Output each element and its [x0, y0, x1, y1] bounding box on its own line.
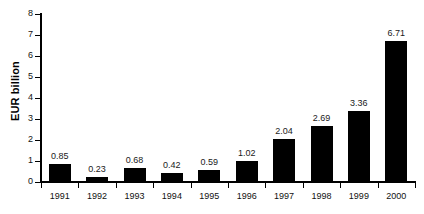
bar	[49, 164, 71, 182]
x-axis-tick-label: 2000	[378, 192, 415, 201]
x-axis-tick	[116, 183, 117, 188]
y-axis-title: EUR billion	[6, 0, 24, 182]
x-axis-tick-label: 1999	[340, 192, 377, 201]
y-axis-tick-label: 2	[22, 135, 33, 144]
bar-value-label: 0.42	[153, 161, 190, 170]
bar	[348, 111, 370, 182]
y-axis-tick-label: 5	[22, 72, 33, 81]
bar-value-label: 0.85	[41, 152, 78, 161]
y-axis-tick	[35, 56, 41, 57]
bar-value-label: 3.36	[340, 99, 377, 108]
y-axis-tick	[35, 119, 41, 120]
bar-value-label: 2.69	[303, 114, 340, 123]
y-axis-tick	[35, 77, 41, 78]
x-axis-tick	[265, 183, 266, 188]
bar	[236, 161, 258, 182]
y-axis-tick-label: 1	[22, 156, 33, 165]
y-axis-tick	[35, 35, 41, 36]
bar-value-label: 6.71	[378, 29, 415, 38]
x-axis-tick-label: 1997	[265, 192, 302, 201]
x-axis-tick-label: 1991	[41, 192, 78, 201]
y-axis-tick	[35, 14, 41, 15]
x-axis-tick	[78, 183, 79, 188]
x-axis-tick	[378, 183, 379, 188]
bar-value-label: 0.59	[191, 158, 228, 167]
y-axis-tick	[35, 140, 41, 141]
y-axis-tick-label: 7	[22, 30, 33, 39]
y-axis-title-label: EUR billion	[9, 61, 21, 121]
x-axis-tick	[41, 183, 42, 188]
y-axis-tick-label: 8	[22, 9, 33, 18]
x-axis-tick-label: 1996	[228, 192, 265, 201]
bar-value-label: 0.68	[116, 156, 153, 165]
bar	[273, 139, 295, 182]
bar	[198, 170, 220, 182]
bar-value-label: 2.04	[265, 127, 302, 136]
x-axis-tick	[415, 183, 416, 188]
bar	[124, 168, 146, 182]
x-axis-tick	[340, 183, 341, 188]
x-axis-tick-label: 1994	[153, 192, 190, 201]
y-axis-tick	[35, 98, 41, 99]
bar	[311, 126, 333, 182]
y-axis-tick-label: 6	[22, 51, 33, 60]
x-axis-tick	[191, 183, 192, 188]
bar	[385, 41, 407, 182]
y-axis-tick-label: 4	[22, 93, 33, 102]
bar-value-label: 1.02	[228, 149, 265, 158]
x-axis-tick-label: 1998	[303, 192, 340, 201]
x-axis-tick	[303, 183, 304, 188]
x-axis-tick	[228, 183, 229, 188]
bar-chart: EUR billion 012345678 199119921993199419…	[0, 0, 424, 214]
bar-value-label: 0.23	[78, 165, 115, 174]
x-axis-tick-label: 1992	[78, 192, 115, 201]
y-axis-tick-label: 3	[22, 114, 33, 123]
x-axis-tick	[153, 183, 154, 188]
bar	[161, 173, 183, 182]
y-axis-tick-label: 0	[22, 177, 33, 186]
x-axis-tick-label: 1993	[116, 192, 153, 201]
x-axis-tick-label: 1995	[191, 192, 228, 201]
bar	[86, 177, 108, 182]
